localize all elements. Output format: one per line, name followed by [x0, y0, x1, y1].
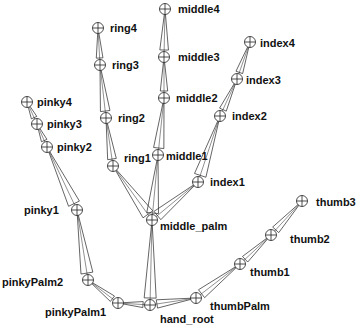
hand-skeleton-diagram: hand_rootmiddle_palmmiddle1middle2middle… — [0, 0, 364, 332]
label-thumbPalm: thumbPalm — [210, 300, 270, 312]
label-middle4: middle4 — [178, 3, 220, 15]
label-pinky3: pinky3 — [47, 118, 82, 130]
joint-pinky1-icon — [72, 205, 83, 216]
joint-thumbPalm-icon — [191, 293, 202, 304]
joint-index3-icon — [232, 74, 243, 85]
bone-axis-index1 — [152, 182, 198, 220]
joint-ring1-icon — [108, 161, 119, 172]
label-thumb2: thumb2 — [290, 233, 330, 245]
joint-middle1-icon — [153, 150, 164, 161]
label-ring4: ring4 — [110, 22, 137, 34]
label-index3: index3 — [246, 74, 281, 86]
label-pinky2: pinky2 — [57, 141, 92, 153]
label-index1: index1 — [210, 176, 245, 188]
bone-axis-thumb1 — [196, 264, 240, 298]
bone-axis-thumb3 — [271, 201, 302, 235]
bone-axis-ring1 — [113, 166, 152, 220]
label-pinkyPalm2: pinkyPalm2 — [2, 276, 63, 288]
label-thumb3: thumb3 — [316, 196, 356, 208]
bone-middle_palm — [144, 220, 156, 298]
joint-index4-icon — [245, 37, 256, 48]
label-thumb1: thumb1 — [250, 266, 290, 278]
joint-pinkyPalm1-icon — [113, 298, 124, 309]
label-ring1: ring1 — [124, 152, 151, 164]
bone-ring1 — [113, 166, 153, 218]
bone-axis-thumb2 — [240, 235, 271, 264]
joint-middle3-icon — [159, 52, 170, 63]
bone-axis-ring3 — [100, 65, 106, 118]
joint-pinky4-icon — [22, 97, 33, 108]
label-middle3: middle3 — [178, 51, 220, 63]
joint-middle_palm-icon — [147, 215, 158, 226]
joint-ring4-icon — [93, 23, 104, 34]
joint-pinky2-icon — [42, 142, 53, 153]
label-middle2: middle2 — [176, 92, 218, 104]
label-pinky1: pinky1 — [24, 204, 59, 216]
bone-axis-index2 — [198, 116, 220, 182]
joint-thumb1-icon — [235, 259, 246, 270]
label-middle_palm: middle_palm — [160, 220, 227, 232]
label-index2: index2 — [232, 110, 267, 122]
bone-index2 — [195, 116, 220, 177]
joint-middle2-icon — [159, 93, 170, 104]
label-ring2: ring2 — [118, 112, 145, 124]
bone-ring3 — [100, 65, 110, 112]
joint-index1-icon — [193, 177, 204, 188]
joint-pinky3-icon — [32, 119, 43, 130]
label-ring3: ring3 — [112, 59, 139, 71]
bone-axis-pinky1 — [77, 210, 88, 280]
joint-middle4-icon — [160, 4, 171, 15]
label-index4: index4 — [260, 37, 295, 49]
bone-middle2 — [154, 98, 164, 149]
label-middle1: middle1 — [166, 150, 208, 162]
label-pinkyPalm1: pinkyPalm1 — [45, 306, 106, 318]
bone-axis-middle2 — [158, 98, 164, 155]
bone-axis-middle1 — [152, 155, 158, 220]
bone-axis-pinky2 — [47, 147, 77, 210]
joint-ring2-icon — [101, 113, 112, 124]
label-hand_root: hand_root — [160, 313, 214, 325]
bone-pinky1 — [77, 210, 93, 274]
joint-ring3-icon — [95, 60, 106, 71]
label-pinky4: pinky4 — [37, 96, 72, 108]
joint-thumb3-icon — [297, 196, 308, 207]
joint-pinkyPalm2-icon — [83, 275, 94, 286]
joint-index2-icon — [215, 111, 226, 122]
bone-pinky2 — [47, 147, 79, 206]
joint-thumb2-icon — [266, 230, 277, 241]
joint-hand_root-icon — [145, 300, 156, 311]
